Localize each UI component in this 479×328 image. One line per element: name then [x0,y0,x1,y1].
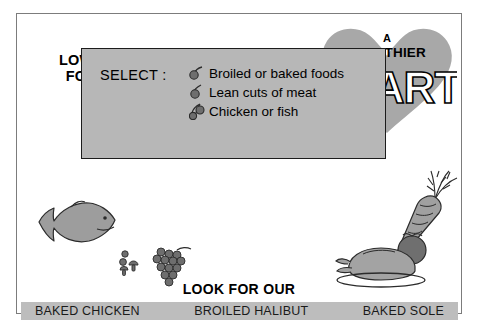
select-panel: SELECT : Broiled or baked foods Lean cut… [81,48,386,159]
select-list: Broiled or baked foods Lean cuts of meat… [189,64,379,121]
list-item-label: Broiled or baked foods [209,66,344,81]
cherry-bullet-icon [189,103,207,120]
menu-band: BAKED CHICKEN BROILED HALIBUT BAKED SOLE [21,302,458,320]
poster-frame: LOW-FAT FOODS = LOWERED CHOLESTEROL = A … [16,13,462,314]
list-item: Chicken or fish [189,102,379,121]
list-item-label: Lean cuts of meat [209,85,316,100]
fish-illustration [37,196,117,248]
list-item-label: Chicken or fish [209,104,298,119]
cherry-bullet-icon [189,65,207,82]
cherry-bullet-icon [189,84,207,101]
list-item: Broiled or baked foods [189,64,379,83]
list-item: Lean cuts of meat [189,83,379,102]
menu-item-broiled-halibut: BROILED HALIBUT [194,304,308,318]
look-for-our-headline: LOOK FOR OUR [17,281,461,297]
select-label: SELECT : [100,67,167,83]
menu-item-baked-sole: BAKED SOLE [363,304,444,318]
heart-article-text: A [317,33,457,44]
menu-item-baked-chicken: BAKED CHICKEN [35,304,140,318]
